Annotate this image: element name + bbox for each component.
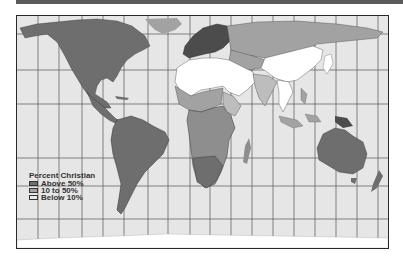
legend: Percent Christian Above 50% 10 to 50% Be… — [29, 171, 95, 201]
header-bar — [16, 0, 403, 4]
legend-swatch-10-to-50 — [29, 188, 38, 193]
legend-swatch-below-10 — [29, 195, 38, 200]
legend-swatch-above-50 — [29, 181, 38, 186]
world-map — [16, 15, 389, 249]
legend-item-below-10: Below 10% — [29, 194, 95, 201]
map-canvas — [17, 16, 388, 248]
legend-label: Below 10% — [41, 194, 83, 201]
